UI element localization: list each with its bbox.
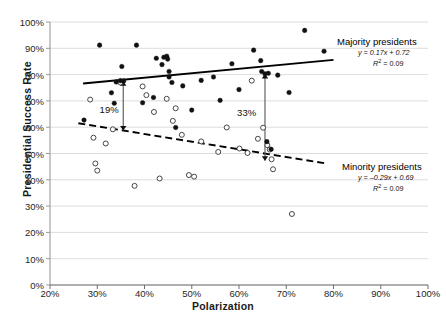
x-tick-label: 60%: [216, 289, 262, 299]
data-point-majority: [170, 80, 175, 85]
data-point-minority: [164, 96, 169, 101]
data-point-majority: [109, 90, 114, 95]
data-point-majority: [230, 62, 235, 67]
data-point-majority: [322, 49, 327, 54]
data-point-majority: [82, 118, 87, 123]
data-point-majority: [275, 73, 280, 78]
data-point-minority: [91, 135, 96, 140]
data-point-minority: [289, 211, 294, 216]
majority-r2-value: = 0.09: [381, 59, 403, 68]
x-tick-label: 90%: [358, 289, 404, 299]
data-point-majority: [237, 87, 242, 92]
data-point-minority: [144, 93, 149, 98]
x-tick-label: 80%: [311, 289, 357, 299]
data-point-majority: [167, 75, 172, 80]
data-point-majority: [258, 58, 263, 63]
data-point-minority: [173, 106, 178, 111]
data-point-majority: [189, 108, 194, 113]
minority-r-squared: R2 = 0.09: [373, 183, 403, 193]
data-point-minority: [249, 78, 254, 83]
data-point-majority: [218, 98, 223, 103]
data-point-majority: [265, 139, 270, 144]
data-point-minority: [103, 141, 108, 146]
data-point-majority: [165, 57, 170, 62]
majority-r-squared: R2 = 0.09: [373, 58, 403, 68]
axis-lines: [46, 22, 428, 289]
series-minority-presidents-points: [88, 78, 295, 216]
data-point-minority: [216, 149, 221, 154]
gap-label-19-percent: 19%: [100, 104, 119, 115]
data-point-majority: [154, 56, 159, 61]
data-point-minority: [88, 97, 93, 102]
minority-r2-value: = 0.09: [381, 184, 403, 193]
data-point-majority: [199, 78, 204, 83]
data-point-minority: [255, 136, 260, 141]
data-point-minority: [132, 183, 137, 188]
gridlines: [50, 22, 428, 285]
data-point-majority: [302, 28, 307, 33]
plot-canvas: [50, 22, 428, 285]
data-point-majority: [97, 43, 102, 48]
scatter-chart: Presidential Success Rate Polarization 1…: [0, 0, 446, 322]
gap-arrowhead: [120, 126, 126, 131]
data-point-majority: [160, 62, 165, 67]
data-point-minority: [224, 125, 229, 130]
data-point-minority: [151, 109, 156, 114]
data-point-majority: [114, 80, 119, 85]
minority-series-label: Minority presidents: [342, 161, 422, 172]
data-point-minority: [157, 176, 162, 181]
plot-area: [50, 22, 428, 285]
data-point-minority: [95, 168, 100, 173]
data-point-minority: [170, 118, 175, 123]
series-majority-presidents-points: [82, 28, 327, 151]
x-tick-label: 20%: [27, 289, 73, 299]
data-point-minority: [186, 173, 191, 178]
data-point-minority: [271, 167, 276, 172]
data-point-minority: [140, 84, 145, 89]
gap-arrowhead: [262, 156, 268, 161]
data-point-minority: [179, 132, 184, 137]
data-point-majority: [266, 71, 271, 76]
data-point-majority: [167, 69, 172, 74]
data-point-minority: [245, 150, 250, 155]
data-point-majority: [121, 79, 126, 84]
data-point-majority: [140, 100, 145, 105]
data-point-minority: [93, 161, 98, 166]
x-tick-label: 70%: [263, 289, 309, 299]
data-point-minority: [269, 157, 274, 162]
data-point-majority: [173, 125, 178, 130]
x-tick-label: 40%: [122, 289, 168, 299]
data-point-majority: [120, 64, 125, 69]
x-tick-label: 100%: [405, 289, 446, 299]
data-point-minority: [192, 174, 197, 179]
data-point-majority: [151, 95, 156, 100]
data-point-minority: [237, 146, 242, 151]
data-point-minority: [261, 125, 266, 130]
data-point-minority: [110, 127, 115, 132]
minority-equation: y = –0.29x + 0.69: [358, 173, 414, 182]
majority-equation: y = 0.17x + 0.72: [358, 48, 410, 57]
data-point-majority: [134, 43, 139, 48]
data-point-majority: [287, 90, 292, 95]
data-point-majority: [251, 48, 256, 53]
data-point-majority: [180, 84, 185, 89]
data-point-majority: [269, 147, 274, 152]
gap-label-33-percent: 33%: [237, 107, 256, 118]
x-tick-label: 50%: [169, 289, 215, 299]
majority-series-label: Majority presidents: [337, 36, 417, 47]
x-tick-label: 30%: [74, 289, 120, 299]
data-point-majority: [211, 75, 216, 80]
data-point-minority: [199, 139, 204, 144]
